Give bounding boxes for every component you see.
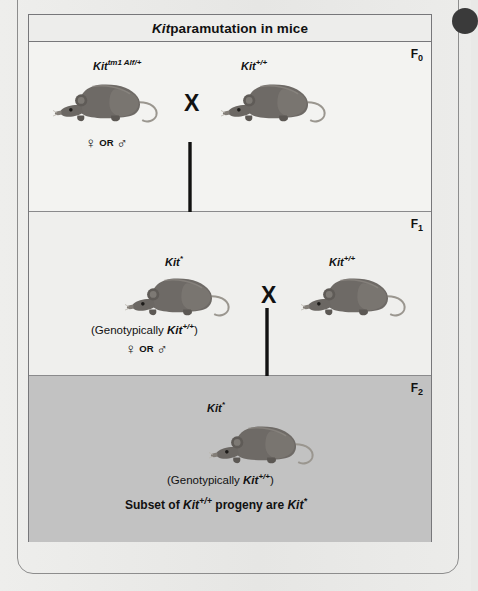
generation-label-f0: F0 — [411, 47, 423, 63]
f0-or-label: OR — [99, 137, 113, 148]
f2-conclusion-text: Subset of Kit+/+ progeny are Kit* — [125, 496, 307, 512]
f1-cross-symbol: X — [261, 282, 276, 309]
f0-left-mouse-icon — [53, 74, 161, 126]
corner-marker-dot — [452, 8, 478, 34]
generation-label-f2: F2 — [411, 381, 423, 397]
generation-label-f1: F1 — [411, 217, 423, 233]
f1-right-mouse-icon — [301, 268, 409, 320]
f2-mouse-icon — [209, 416, 317, 468]
figure-panel: Kit paramutation in mice F0 Kittm1 Alf/+… — [28, 14, 432, 542]
f2-mouse-label: Kit* — [207, 400, 225, 414]
generation-panel-f0: F0 Kittm1 Alf/+ ♀ OR ♂ X Kit+/+ — [29, 42, 431, 212]
generation-panel-f1: F1 Kit* (Genotypically Kit+/+) ♀ OR ♂ X … — [29, 212, 431, 376]
f0-right-mouse-label: Kit+/+ — [241, 58, 267, 72]
male-symbol-icon: ♂ — [157, 340, 168, 357]
f0-left-mouse-label: Kittm1 Alf/+ — [93, 58, 141, 72]
figure-title-text: paramutation in mice — [170, 21, 308, 36]
f2-genotype-caption: (Genotypically Kit+/+) — [167, 472, 274, 486]
male-symbol-icon: ♂ — [117, 134, 128, 151]
figure-title: Kit paramutation in mice — [29, 15, 431, 42]
female-symbol-icon: ♀ — [125, 340, 136, 357]
f1-left-mouse-label: Kit* — [165, 254, 183, 268]
f1-right-mouse-label: Kit+/+ — [329, 254, 355, 268]
f0-right-mouse-icon — [221, 74, 329, 126]
f0-cross-symbol: X — [184, 90, 199, 117]
figure-title-gene: Kit — [152, 21, 170, 36]
f1-left-mouse-icon — [125, 268, 233, 320]
f1-sex-selector: ♀ OR ♂ — [125, 340, 168, 357]
f0-sex-selector: ♀ OR ♂ — [85, 134, 128, 151]
f1-or-label: OR — [139, 343, 153, 354]
generation-panel-f2: F2 Kit* (Genotypically Kit+/+) Subset of… — [29, 376, 431, 542]
female-symbol-icon: ♀ — [85, 134, 96, 151]
f1-genotype-caption: (Genotypically Kit+/+) — [91, 322, 198, 336]
